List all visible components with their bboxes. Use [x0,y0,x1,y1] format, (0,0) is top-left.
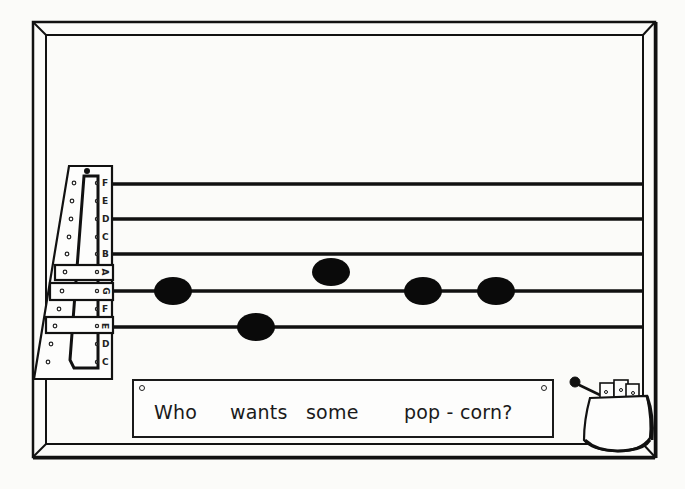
slide-label: B [102,249,109,259]
sign-hole-icon [541,385,547,391]
lyric-sign: Who wants some pop - corn? [132,379,554,438]
lyric-word: wants [230,401,288,423]
slide-label: C [102,357,109,367]
lyric-word: some [306,401,359,423]
lyric-word: Who [154,401,197,423]
slide-label: C [102,232,109,242]
slide-label: E [100,323,110,329]
slide-label: A [100,269,110,276]
music-lesson-illustration: F E D C B A G F E D C Who wants some pop… [0,0,685,489]
lyric-word: pop - corn? [404,401,513,423]
note-a [312,258,350,286]
sign-hole-icon [139,385,145,391]
slide-label: D [102,214,109,224]
note-e [237,313,275,341]
staff-lines [112,184,643,327]
slide-label: G [101,287,111,294]
note-g [154,277,192,305]
note-g [477,277,515,305]
slide-label: D [102,339,109,349]
note-g [404,277,442,305]
cup-with-cards-and-mallet-icon [570,377,652,451]
slide-label: E [102,196,108,206]
slide-label: F [102,178,108,188]
slide-label: F [102,304,108,314]
